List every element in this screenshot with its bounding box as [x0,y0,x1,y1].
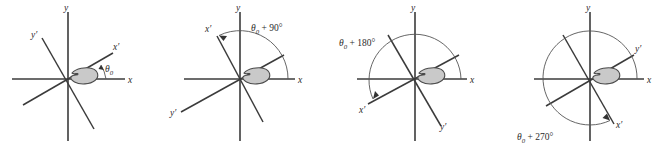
angle-arrowhead [219,36,227,42]
angle-label: θ0 + 270° [517,132,553,144]
y-prime-label: y′ [30,30,38,40]
y-axis-label: y [235,3,241,13]
panel-theta0-plus-180: y x x′ y′ θ0 + 180° [328,0,492,151]
x-axis-label: x [646,75,652,85]
body-blob [593,68,620,84]
y-axis-label: y [63,3,69,13]
body-blob [243,68,270,84]
panel-theta0-plus-270: y x y′ x′ θ0 + 270° [492,0,656,151]
x-axis-label: x [469,75,475,85]
x-axis-label: x [127,75,133,85]
rotated-frames-figure: y x y′ x′ θ0 y x x′ y′ θ0 + 90° [0,0,656,151]
x-axis-label: x [297,75,303,85]
panel-theta0: y x y′ x′ θ0 [0,0,164,151]
y-prime-label: y′ [634,44,642,54]
angle-arrowhead [99,65,105,70]
angle-label: θ0 + 90° [251,23,283,35]
x-prime-label: x′ [358,105,366,115]
x-prime-label: x′ [112,42,120,52]
y-prime-label: y′ [439,122,447,132]
x-prime-label: x′ [615,120,623,130]
x-prime-label: x′ [204,24,212,34]
panel-theta0-plus-90: y x x′ y′ θ0 + 90° [164,0,328,151]
body-blob [418,68,445,84]
y-axis-label: y [585,3,591,13]
y-axis-label: y [410,3,416,13]
y-prime-label: y′ [169,108,177,118]
body-blob [71,68,98,84]
angle-label: θ0 + 180° [339,38,375,50]
angle-label: θ0 [105,64,114,76]
